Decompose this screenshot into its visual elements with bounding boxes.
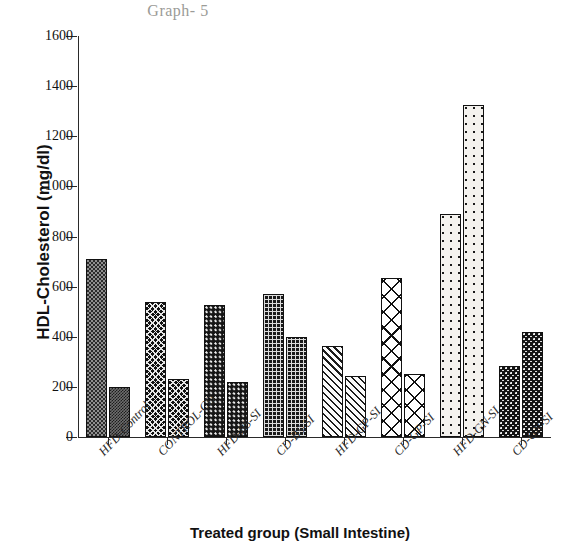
bar-hfd-gp-si-a (322, 346, 343, 437)
y-tick-label: 200 (52, 379, 73, 395)
bar-control-cd-a (145, 302, 166, 437)
plot-area: 02004006008001000120014001600 (78, 36, 551, 437)
y-tick-label: 600 (52, 279, 73, 295)
y-tick-label: 1600 (45, 28, 73, 44)
bar-hfd-gn-si-b (463, 105, 484, 437)
y-tick-label: 0 (66, 429, 73, 445)
y-tick-label: 1400 (45, 78, 73, 94)
y-tick-label: 800 (52, 229, 73, 245)
chart-figure: Graph- 5 HDL-Cholesterol (mg/dl) 0200400… (0, 0, 564, 555)
bar-cd-bs-si-a (263, 294, 284, 437)
y-tick-label: 1200 (45, 128, 73, 144)
chart-title: Graph- 5 (78, 2, 278, 20)
x-axis-category-labels: HFD-ControlCONTROL-CDHFD-BS-SICD-BS-SIHF… (78, 443, 551, 533)
x-axis-title: Treated group (Small Intestine) (130, 524, 470, 541)
y-tick-label: 1000 (45, 178, 73, 194)
bar-cd-gp-si-a (381, 278, 402, 437)
bar-hfd-control-a (86, 259, 107, 437)
bar-cd-gn-si-a (499, 366, 520, 437)
bar-hfd-gn-si-a (440, 214, 461, 437)
bar-hfd-bs-si-a (204, 305, 225, 437)
y-tick-label: 400 (52, 329, 73, 345)
